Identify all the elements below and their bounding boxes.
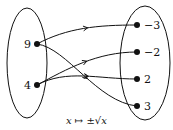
label-cm3: −3	[144, 19, 160, 32]
label-cm2: −2	[144, 46, 160, 59]
point-d9	[34, 41, 40, 47]
point-cm2	[134, 49, 140, 55]
point-c3	[134, 103, 140, 109]
point-c2	[134, 76, 140, 82]
mapping-diagram: 94−3−223 x ↦ ±√x	[0, 0, 173, 130]
domain-set-ellipse	[7, 8, 47, 118]
function-caption: x ↦ ±√x	[66, 115, 107, 126]
point-d4	[34, 82, 40, 88]
mapping-arrow-d4-cm2	[37, 52, 137, 85]
label-d4: 4	[24, 79, 31, 92]
label-c3: 3	[144, 100, 151, 113]
label-d9: 9	[24, 38, 31, 51]
point-cm3	[134, 22, 140, 28]
label-c2: 2	[144, 73, 151, 86]
